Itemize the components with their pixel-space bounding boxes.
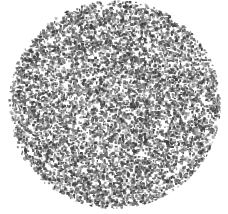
speckle-disc-canvas (0, 0, 228, 214)
image-canvas-container (0, 0, 228, 214)
